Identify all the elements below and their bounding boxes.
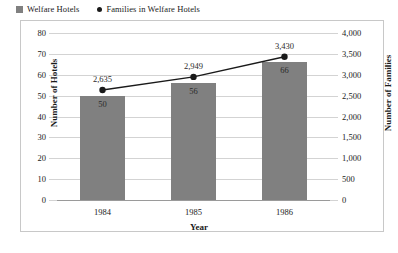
y-axis-tick-left bbox=[49, 200, 57, 201]
y-axis-tick-label-left: 70 bbox=[38, 50, 47, 59]
legend-item-label: Welfare Hotels bbox=[27, 5, 79, 14]
bar-1984[interactable]: 50 bbox=[80, 96, 125, 200]
y-axis-tick-right bbox=[330, 54, 338, 55]
y-axis-tick-label-right: 3,000 bbox=[342, 71, 361, 80]
x-axis-tick-label-1984: 1984 bbox=[94, 208, 111, 217]
legend-item-welfare-hotels: Welfare Hotels bbox=[16, 5, 79, 14]
bar-value-label: 56 bbox=[171, 87, 216, 96]
bar-value-label: 66 bbox=[262, 66, 307, 75]
data-point-value-label: 3,430 bbox=[275, 41, 294, 50]
y-axis-tick-left bbox=[49, 179, 57, 180]
gridline bbox=[57, 33, 330, 34]
y-axis-tick-right bbox=[330, 75, 338, 76]
bar-1986[interactable]: 66 bbox=[262, 62, 307, 200]
y-axis-tick-label-left: 20 bbox=[38, 154, 47, 163]
legend-item-families-in-welfare-hotels: Families in Welfare Hotels bbox=[97, 5, 200, 14]
y-axis-tick-label-left: 40 bbox=[38, 112, 47, 121]
data-point-1984[interactable] bbox=[99, 87, 105, 93]
y-axis-tick-label-left: 60 bbox=[38, 71, 47, 80]
bar-value-label: 50 bbox=[80, 100, 125, 109]
y-axis-tick-label-left: 0 bbox=[42, 196, 46, 205]
y-axis-tick-label-right: 0 bbox=[342, 196, 346, 205]
y-axis-title-left: Number of Hotels bbox=[49, 33, 59, 153]
y-axis-tick-right bbox=[330, 96, 338, 97]
x-axis-title: Year bbox=[0, 222, 398, 232]
y-axis-tick-label-right: 4,000 bbox=[342, 29, 361, 38]
axis-baseline bbox=[57, 200, 330, 201]
y-axis-tick-label-left: 80 bbox=[38, 29, 47, 38]
y-axis-tick-right bbox=[330, 179, 338, 180]
gridline bbox=[57, 54, 330, 55]
y-axis-tick-label-left: 50 bbox=[38, 91, 47, 100]
y-axis-tick-right bbox=[330, 137, 338, 138]
bar-1985[interactable]: 56 bbox=[171, 83, 216, 200]
y-axis-tick-label-right: 1,000 bbox=[342, 154, 361, 163]
plot-area: 0010500201,000301,500402,000502,500603,0… bbox=[57, 33, 330, 200]
chart-container: Welfare Hotels Families in Welfare Hotel… bbox=[0, 0, 398, 253]
y-axis-tick-left bbox=[49, 158, 57, 159]
data-point-value-label: 2,635 bbox=[93, 74, 112, 83]
legend-item-label: Families in Welfare Hotels bbox=[106, 5, 200, 14]
y-axis-tick-label-right: 2,500 bbox=[342, 91, 361, 100]
y-axis-tick-label-left: 10 bbox=[38, 175, 47, 184]
data-point-value-label: 2,949 bbox=[184, 61, 203, 70]
y-axis-tick-right bbox=[330, 117, 338, 118]
square-swatch-icon bbox=[16, 6, 23, 13]
y-axis-title-right: Number of Families bbox=[383, 33, 393, 153]
y-axis-tick-label-right: 3,500 bbox=[342, 50, 361, 59]
y-axis-tick-label-right: 500 bbox=[342, 175, 355, 184]
dot-marker-icon bbox=[97, 7, 102, 12]
y-axis-tick-label-right: 1,500 bbox=[342, 133, 361, 142]
y-axis-tick-right bbox=[330, 33, 338, 34]
y-axis-tick-label-right: 2,000 bbox=[342, 112, 361, 121]
chart-legend: Welfare Hotels Families in Welfare Hotel… bbox=[16, 2, 200, 16]
x-axis-tick-label-1986: 1986 bbox=[276, 208, 293, 217]
x-axis-tick-label-1985: 1985 bbox=[185, 208, 202, 217]
y-axis-tick-label-left: 30 bbox=[38, 133, 47, 142]
y-axis-tick-right bbox=[330, 200, 338, 201]
y-axis-tick-right bbox=[330, 158, 338, 159]
